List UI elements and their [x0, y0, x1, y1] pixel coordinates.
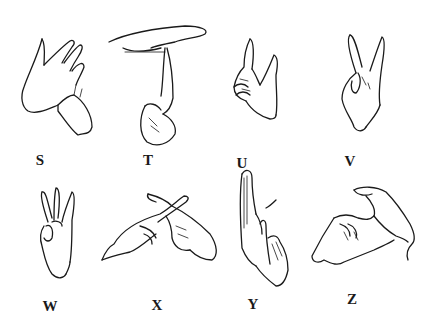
letter-label-t: T — [143, 152, 153, 169]
hand-drawing-y-icon — [238, 168, 293, 298]
hand-drawing-v-icon — [338, 33, 398, 138]
hand-drawing-x-icon — [100, 190, 220, 265]
letter-label-s: S — [36, 152, 44, 169]
hand-drawing-s-icon — [18, 35, 98, 140]
letter-label-x: X — [152, 297, 163, 314]
manual-alphabet-illustration: S T U — [0, 0, 435, 334]
sign-y: Y — [238, 168, 293, 298]
letter-label-z: Z — [347, 291, 357, 308]
hand-drawing-u-icon — [230, 35, 290, 130]
sign-u: U — [230, 35, 290, 130]
sign-t: T — [105, 22, 210, 152]
hand-drawing-z-icon — [310, 184, 435, 269]
letter-label-v: V — [345, 153, 356, 170]
hand-drawing-t-icon — [105, 22, 210, 152]
hand-drawing-w-icon — [36, 186, 81, 291]
sign-z: Z — [310, 184, 435, 269]
sign-x: X — [100, 190, 220, 265]
letter-label-y: Y — [248, 296, 259, 313]
sign-s: S — [18, 35, 98, 140]
letter-label-w: W — [43, 298, 58, 315]
sign-v: V — [338, 33, 398, 138]
sign-w: W — [36, 186, 81, 291]
